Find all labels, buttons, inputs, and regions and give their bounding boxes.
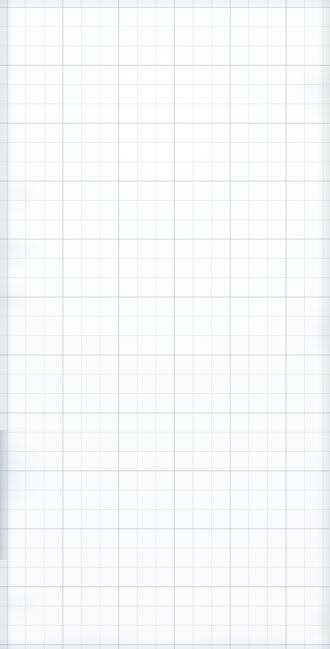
paper-surface [0, 0, 330, 649]
page-content-area[interactable] [0, 0, 330, 649]
blank-grid-page [0, 0, 330, 649]
